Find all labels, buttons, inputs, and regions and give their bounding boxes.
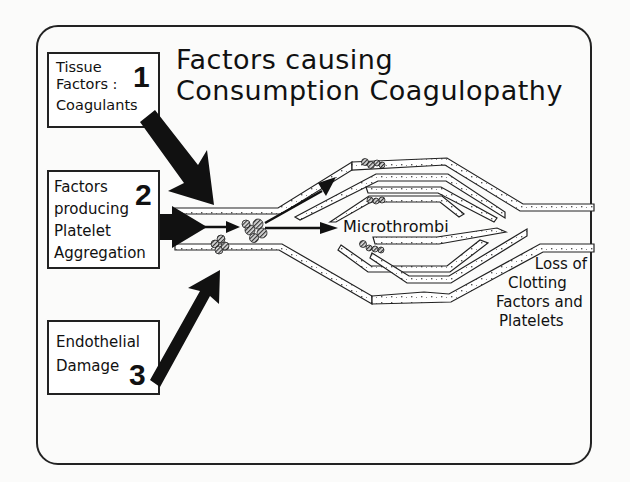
vessel-diagram xyxy=(0,0,630,482)
microthrombi-label: Microthrombi xyxy=(343,217,449,236)
arrow-from-factor-1 xyxy=(140,110,214,205)
loss-label: Loss of xyxy=(527,255,587,274)
arrow-from-factor-3 xyxy=(150,270,220,387)
loss-label-rest: Clotting Factors and Platelets xyxy=(496,274,583,331)
